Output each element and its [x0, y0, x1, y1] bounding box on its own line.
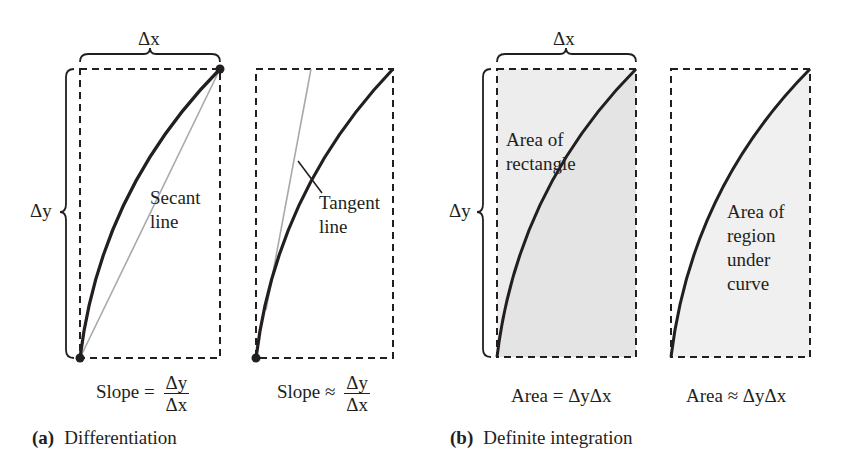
fraction-numerator: Δy — [164, 372, 190, 394]
delta-x-text: Δx — [553, 28, 575, 49]
area-equals-formula: Area = ΔyΔx — [511, 385, 612, 407]
area-of-region-label: Area of region under curve — [727, 200, 785, 296]
tangent-line-label: Tangent line — [319, 191, 380, 239]
delta-x-text: Δx — [138, 28, 160, 49]
delta-y-text: Δy — [449, 200, 471, 221]
area-approx-formula: Area ≈ ΔyΔx — [686, 385, 786, 407]
fraction: Δy Δx — [164, 372, 190, 415]
fraction: Δy Δx — [344, 372, 370, 415]
formula-lhs: Slope ≈ — [277, 381, 335, 402]
endpoint-dot — [76, 354, 85, 363]
delta-x-label: Δx — [138, 28, 160, 50]
caption-tag: (b) — [450, 427, 473, 448]
caption-b: (b)Definite integration — [450, 427, 633, 449]
slope-equals-formula: Slope = Δy Δx — [96, 372, 189, 415]
caption-text: Differentiation — [64, 427, 177, 448]
fraction-denominator: Δx — [164, 394, 190, 415]
caption-a: (a)Differentiation — [32, 427, 177, 449]
area-of-rectangle-label: Area of rectangle — [506, 128, 576, 176]
endpoint-dot — [216, 65, 225, 74]
delta-y-label: Δy — [30, 200, 52, 222]
calculus-figure: Δx Δy Secant line Tangent line Slope = Δ… — [0, 0, 846, 449]
delta-x-brace — [497, 48, 636, 62]
caption-text: Definite integration — [483, 427, 632, 448]
secant-line-label: Secant line — [150, 186, 201, 234]
delta-x-label: Δx — [553, 28, 575, 50]
slope-approx-formula: Slope ≈ Δy Δx — [277, 372, 370, 415]
fraction-denominator: Δx — [344, 394, 370, 415]
endpoint-dot — [252, 354, 261, 363]
delta-y-label: Δy — [449, 200, 471, 222]
panel-b-left-diagram — [477, 48, 636, 357]
delta-y-brace — [60, 69, 74, 358]
delta-y-text: Δy — [30, 200, 52, 221]
fraction-numerator: Δy — [344, 372, 370, 394]
caption-tag: (a) — [32, 427, 54, 448]
formula-lhs: Slope = — [96, 381, 155, 402]
delta-y-brace — [477, 69, 491, 357]
delta-x-brace — [80, 48, 220, 62]
